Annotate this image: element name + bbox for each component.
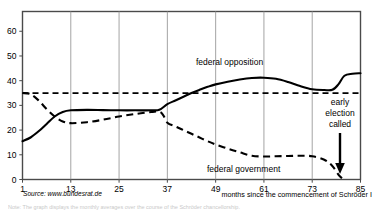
anno-line-3: called bbox=[329, 119, 351, 129]
y-tick-label-60: 60 bbox=[7, 26, 17, 36]
series-label-opposition: federal opposition bbox=[196, 57, 263, 67]
poll-trend-chart: 0102030405060 113253749617385 federal op… bbox=[0, 0, 373, 212]
source-note: Source: www.bundesrat.de bbox=[23, 190, 102, 197]
y-tick-label-0: 0 bbox=[12, 175, 17, 185]
x-tick-label-49: 49 bbox=[211, 184, 221, 194]
y-tick-label-10: 10 bbox=[7, 150, 17, 160]
y-tick-label-30: 30 bbox=[7, 100, 17, 110]
anno-line-1: early bbox=[331, 97, 350, 107]
page-tail-text: Note: The graph displays the monthly ave… bbox=[8, 204, 365, 211]
y-tick-label-20: 20 bbox=[7, 125, 17, 135]
x-tick-label-25: 25 bbox=[114, 184, 124, 194]
x-axis-caption: months since the commencement of Schröde… bbox=[221, 190, 372, 199]
series-label-government: federal government bbox=[207, 164, 281, 174]
x-tick-label-37: 37 bbox=[163, 184, 173, 194]
y-tick-label-50: 50 bbox=[7, 51, 17, 61]
anno-line-2: election bbox=[325, 108, 355, 118]
y-tick-label-40: 40 bbox=[7, 76, 17, 86]
